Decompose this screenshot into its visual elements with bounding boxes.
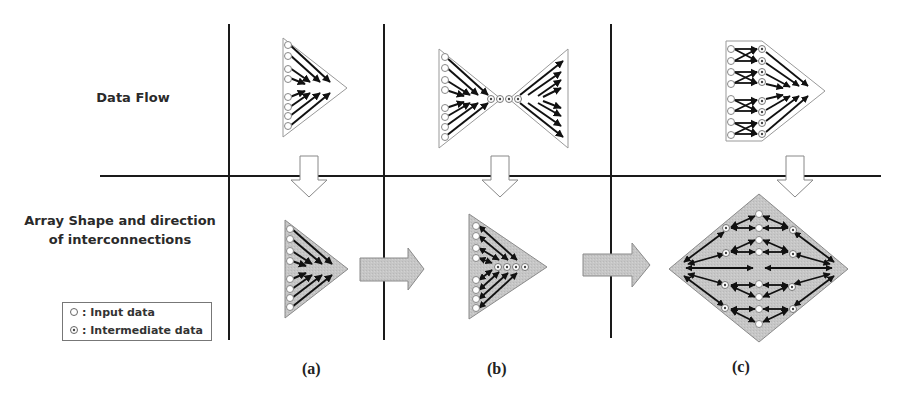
- column-a-data-flow: [283, 38, 347, 137]
- row-label-data-flow: Data Flow: [88, 88, 178, 107]
- column-c-array-shape: [669, 194, 848, 342]
- array-shape-label-line1: Array Shape and direction: [20, 211, 220, 230]
- diagram-canvas: [0, 0, 910, 404]
- legend-item-input: : Input data: [63, 303, 211, 321]
- dotted-circle-icon: [69, 325, 79, 335]
- row-label-array-shape: Array Shape and direction of interconnec…: [20, 211, 220, 249]
- data-flow-label: Data Flow: [96, 90, 169, 105]
- column-b-data-flow: [439, 49, 568, 148]
- open-circle-icon: [69, 307, 79, 317]
- legend-label-intermediate: Intermediate data: [90, 324, 203, 337]
- legend-label-input: Input data: [90, 306, 155, 319]
- legend-separator: :: [82, 324, 86, 337]
- legend-separator: :: [82, 306, 86, 319]
- caption-c: (c): [732, 358, 750, 376]
- caption-b: (b): [487, 360, 507, 378]
- right-arrow-b-to-c: [583, 243, 650, 287]
- caption-a: (a): [302, 360, 321, 378]
- right-arrow-a-to-b: [360, 248, 424, 290]
- column-b-array-shape: [469, 214, 547, 319]
- array-shape-label-line2: of interconnections: [20, 230, 220, 249]
- legend: : Input data : Intermediate data: [62, 302, 212, 341]
- column-a-array-shape: [285, 220, 348, 318]
- legend-item-intermediate: : Intermediate data: [63, 321, 211, 339]
- column-c-data-flow: [726, 41, 825, 141]
